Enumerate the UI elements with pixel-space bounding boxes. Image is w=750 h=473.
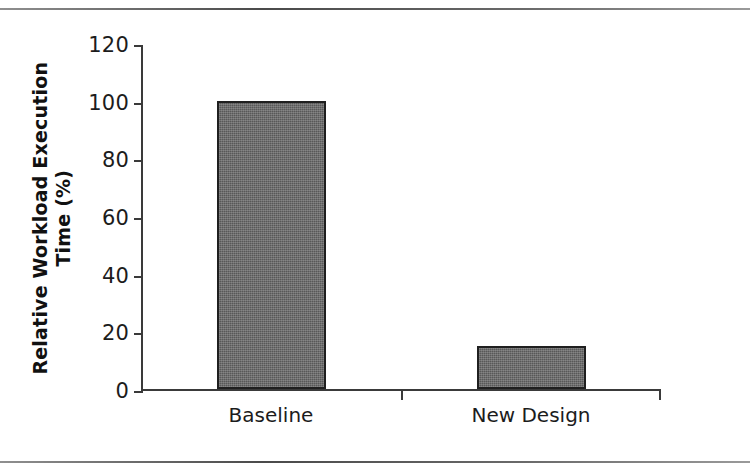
y-axis-tick-label: 80 (102, 150, 129, 171)
bar-baseline[interactable] (217, 101, 326, 389)
y-axis-tick (134, 391, 143, 393)
y-axis-tick (134, 333, 143, 335)
y-axis-tick (134, 218, 143, 220)
y-axis-tick-label: 0 (115, 381, 129, 402)
y-axis-tick (134, 160, 143, 162)
y-axis-title: Relative Workload Execution Time (%) (18, 45, 86, 392)
y-axis-tick (134, 45, 143, 47)
y-axis-tick-label: 40 (102, 265, 129, 286)
x-axis-end-tick (659, 391, 661, 400)
bar-chart-figure: Relative Workload Execution Time (%) 020… (0, 10, 750, 460)
y-axis-tick-label: 20 (102, 323, 129, 344)
y-axis-title-line1: Relative Workload Execution (29, 62, 51, 375)
y-axis-tick (134, 276, 143, 278)
y-axis-tick-label: 100 (88, 92, 129, 113)
y-axis-tick (134, 103, 143, 105)
y-axis-tick-label: 120 (88, 35, 129, 56)
page-separator-bottom (0, 461, 750, 463)
y-axis-title-line2: Time (%) (52, 62, 75, 375)
bar-new-design[interactable] (477, 346, 586, 389)
x-axis-category-label: Baseline (229, 405, 314, 425)
x-axis-tick (401, 391, 403, 400)
plot-area: 020406080100120BaselineNew Design (141, 45, 661, 391)
x-axis-category-label: New Design (471, 405, 590, 425)
y-axis-tick-label: 60 (102, 208, 129, 229)
